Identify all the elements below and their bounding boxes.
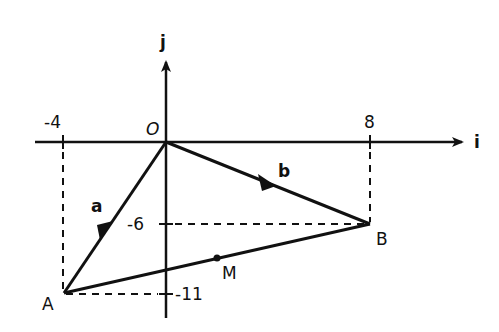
vector-diagram: j i O -4 8 -6 -11 a b A B M (0, 0, 499, 332)
x-tick-label-neg4: -4 (44, 112, 61, 132)
x-tick-label-8: 8 (364, 112, 375, 132)
arrowhead-b-icon (258, 174, 276, 191)
y-tick-label-neg11: -11 (175, 284, 203, 304)
point-B-label: B (376, 229, 388, 249)
y-axis-label: j (159, 32, 166, 52)
tick-marks (63, 135, 370, 294)
vector-a-line (64, 142, 166, 293)
vector-a-label: a (91, 196, 102, 216)
arrowhead-a-icon (97, 221, 113, 240)
x-axis-label: i (474, 132, 480, 152)
point-M-dot (214, 255, 221, 262)
vector-b-label: b (278, 161, 290, 181)
vector-b-line (166, 142, 370, 224)
point-A-label: A (42, 294, 54, 314)
origin-label: O (146, 119, 159, 139)
y-tick-label-neg6: -6 (127, 214, 144, 234)
point-M-label: M (222, 263, 237, 283)
